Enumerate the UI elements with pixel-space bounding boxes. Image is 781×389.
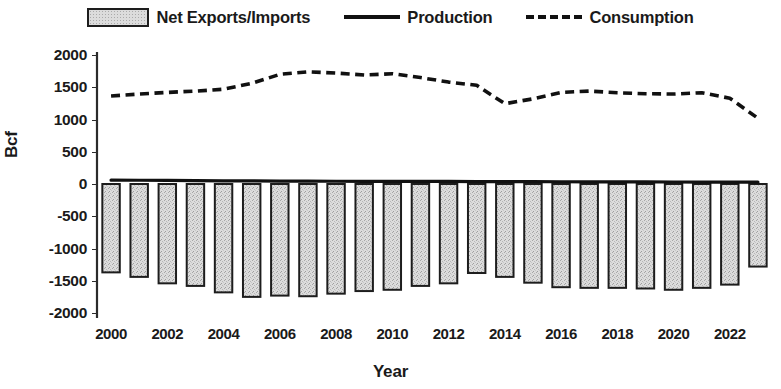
x-tick-label: 2008 xyxy=(320,325,352,342)
y-tick-label: -500 xyxy=(11,207,87,225)
bar-2003 xyxy=(187,184,204,286)
plot-area: 2000150010005000-500-1000-1500-2000 2000… xyxy=(0,0,781,389)
y-tick-label: -2000 xyxy=(11,304,87,322)
bar-2010 xyxy=(384,184,401,290)
y-tick-mark xyxy=(92,120,97,121)
bar-2020 xyxy=(665,184,682,290)
y-tick-label: 2000 xyxy=(11,46,87,64)
y-tick-label: 1000 xyxy=(11,111,87,129)
bar-2019 xyxy=(637,184,654,288)
x-tick-label: 2010 xyxy=(376,325,408,342)
y-tick-label: 500 xyxy=(11,143,87,161)
bar-2013 xyxy=(468,184,485,273)
y-tick-label: 0 xyxy=(11,175,87,193)
bar-2015 xyxy=(524,184,541,283)
y-tick-label: -1000 xyxy=(11,240,87,258)
bar-2007 xyxy=(299,184,316,296)
bar-2011 xyxy=(412,184,429,286)
x-tick-label: 2004 xyxy=(208,325,240,342)
bar-2002 xyxy=(159,184,176,283)
bar-2014 xyxy=(496,184,513,277)
y-tick-mark xyxy=(92,281,97,282)
x-tick-label: 2012 xyxy=(433,325,465,342)
bar-2008 xyxy=(327,184,344,294)
x-tick-label: 2022 xyxy=(714,325,746,342)
y-tick-mark xyxy=(92,184,97,185)
y-tick-label: -1500 xyxy=(11,272,87,290)
bar-2000 xyxy=(102,184,119,272)
bar-2009 xyxy=(355,184,372,291)
bar-2012 xyxy=(440,184,457,283)
x-tick-label: 2002 xyxy=(151,325,183,342)
x-tick-label: 2006 xyxy=(264,325,296,342)
y-tick-mark xyxy=(92,249,97,250)
consumption-line xyxy=(111,72,758,118)
x-tick-label: 2020 xyxy=(658,325,690,342)
bar-2023 xyxy=(749,184,766,267)
bar-2006 xyxy=(271,184,288,296)
bar-2005 xyxy=(243,184,260,297)
bar-2016 xyxy=(552,184,569,287)
x-tick-label: 2000 xyxy=(95,325,127,342)
bar-2001 xyxy=(130,184,147,277)
y-tick-mark xyxy=(92,87,97,88)
bar-2022 xyxy=(721,184,738,285)
y-tick-mark xyxy=(92,152,97,153)
x-tick-label: 2016 xyxy=(545,325,577,342)
y-tick-mark xyxy=(92,313,97,314)
x-tick-label: 2014 xyxy=(489,325,521,342)
production-line xyxy=(111,180,758,182)
bar-2018 xyxy=(609,184,626,288)
x-tick-label: 2018 xyxy=(601,325,633,342)
y-tick-label: 1500 xyxy=(11,78,87,96)
bar-2021 xyxy=(693,184,710,288)
y-tick-mark xyxy=(92,216,97,217)
chart-figure: Net Exports/Imports Production Consumpti… xyxy=(0,0,781,389)
bar-2004 xyxy=(215,184,232,292)
bar-2017 xyxy=(580,184,597,288)
y-tick-mark xyxy=(92,55,97,56)
